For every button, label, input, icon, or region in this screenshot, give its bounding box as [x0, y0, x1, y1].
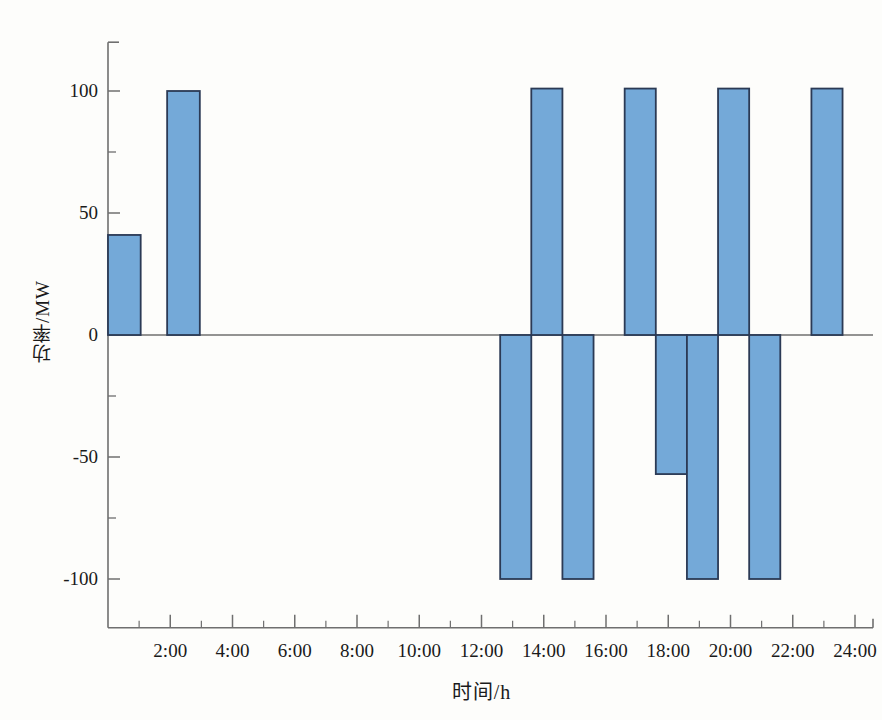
bar[interactable] — [811, 89, 842, 335]
bar[interactable] — [167, 91, 200, 335]
bar[interactable] — [749, 335, 780, 579]
chart-canvas — [0, 0, 882, 720]
y-tick-label: -50 — [26, 446, 98, 468]
bar[interactable] — [500, 335, 531, 579]
y-tick-label: 100 — [26, 80, 98, 102]
bar[interactable] — [562, 335, 593, 579]
bar[interactable] — [687, 335, 718, 579]
bar[interactable] — [108, 235, 141, 335]
x-tick-label: 18:00 — [633, 640, 703, 662]
x-tick-label: 22:00 — [758, 640, 828, 662]
x-tick-label: 10:00 — [384, 640, 454, 662]
bar[interactable] — [718, 89, 749, 335]
x-tick-label: 12:00 — [447, 640, 517, 662]
x-tick-label: 8:00 — [322, 640, 392, 662]
y-tick-label: -100 — [26, 568, 98, 590]
y-axis-label-text: 功率/MW — [29, 280, 56, 363]
x-tick-label: 14:00 — [509, 640, 579, 662]
y-tick-label: 50 — [26, 202, 98, 224]
x-tick-label: 4:00 — [198, 640, 268, 662]
bar[interactable] — [531, 89, 562, 335]
x-tick-label: 24:00 — [820, 640, 882, 662]
bar[interactable] — [656, 335, 687, 474]
x-tick-label: 16:00 — [571, 640, 641, 662]
x-tick-label: 20:00 — [696, 640, 766, 662]
x-tick-label: 6:00 — [260, 640, 330, 662]
x-axis-label: 时间/h — [382, 676, 582, 705]
bars-layer — [108, 89, 843, 579]
chart-figure: 功率/MW 100500-50-100 2:004:006:008:0010:0… — [0, 0, 882, 720]
bar[interactable] — [625, 89, 656, 335]
y-axis-label: 功率/MW — [22, 262, 62, 382]
x-tick-label: 2:00 — [135, 640, 205, 662]
y-tick-label: 0 — [26, 324, 98, 346]
